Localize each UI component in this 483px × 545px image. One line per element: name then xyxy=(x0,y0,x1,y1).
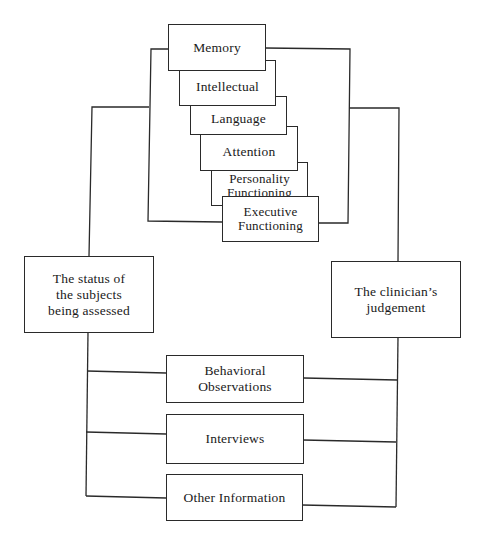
domain-executive-label: Executive Functioning xyxy=(238,205,303,233)
domain-attention-label: Attention xyxy=(223,144,276,160)
domain-intellectual-label: Intellectual xyxy=(196,79,259,95)
source-other-label: Other Information xyxy=(184,490,286,506)
domain-executive-functioning: Executive Functioning xyxy=(222,196,319,242)
subject-status-label: The status of the subjects being assesse… xyxy=(48,271,130,319)
status-to-behavioral xyxy=(87,371,166,373)
domain-memory-label: Memory xyxy=(193,40,241,56)
connector-bracket-to-clinician xyxy=(349,108,399,261)
clinician-judgement-node: The clinician’s judgement xyxy=(331,261,461,338)
status-to-interviews xyxy=(86,432,166,434)
subject-status-node: The status of the subjects being assesse… xyxy=(24,256,154,333)
source-interviews-label: Interviews xyxy=(206,431,265,447)
status-to-other xyxy=(86,496,166,498)
connector-bracket-to-status xyxy=(89,107,149,256)
domain-language-label: Language xyxy=(211,111,266,127)
status-trunk xyxy=(86,332,88,496)
source-other-information: Other Information xyxy=(166,474,303,521)
behavioral-to-clinician xyxy=(304,378,397,380)
domain-memory: Memory xyxy=(168,24,266,71)
source-behavioral-observations: Behavioral Observations xyxy=(166,355,304,403)
source-interviews: Interviews xyxy=(166,414,304,464)
source-behavioral-label: Behavioral Observations xyxy=(198,363,272,395)
interviews-to-clinician xyxy=(303,440,396,442)
other-to-clinician xyxy=(302,505,396,507)
clinician-judgement-label: The clinician’s judgement xyxy=(355,284,438,316)
clinician-trunk xyxy=(396,337,398,507)
